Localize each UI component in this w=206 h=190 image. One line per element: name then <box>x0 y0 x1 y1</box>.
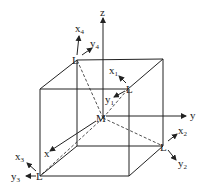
global-axes <box>50 18 186 151</box>
ligand-3-label: L <box>36 170 43 182</box>
y-label: y <box>190 109 196 121</box>
x2-label: x2 <box>178 124 188 138</box>
ligand-1-label: L <box>126 83 133 95</box>
tetrahedral-cube-diagram: z y x M L L L L x4 y4 x1 y1 x2 y2 x3 y3 <box>0 0 206 190</box>
metal-label: M <box>96 112 106 124</box>
y2-label: y2 <box>178 157 188 171</box>
x-label: x <box>44 147 50 159</box>
diagram-svg: z y x M L L L L x4 y4 x1 y1 x2 y2 x3 y3 <box>0 0 206 190</box>
y1-label: y1 <box>105 93 115 107</box>
x3-label: x3 <box>15 150 25 164</box>
x1-label: x1 <box>109 64 119 78</box>
y4-label: y4 <box>90 37 100 51</box>
ligand-2-label: L <box>160 141 167 153</box>
y3-label: y3 <box>11 170 21 184</box>
x4-label: x4 <box>75 22 85 36</box>
z-label: z <box>100 6 105 18</box>
ligand-4-label: L <box>72 54 79 66</box>
